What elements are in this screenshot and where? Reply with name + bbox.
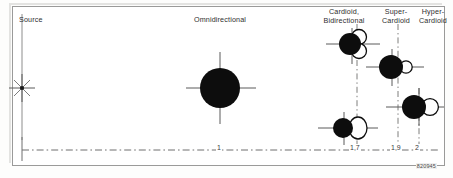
super-cardioid-front-lobe (379, 55, 403, 79)
label-cardioid-bidirectional: Cardioid, Bidirectional (313, 8, 375, 25)
pattern-hyper-cardioid (386, 88, 444, 126)
polar-pattern-figure: Source Omnidirectional Cardioid, Bidirec… (0, 0, 453, 178)
label-omnidirectional: Omnidirectional (165, 16, 275, 25)
axis-tick-label-1-9: 1,9 (390, 144, 402, 152)
diagram-canvas (0, 0, 453, 178)
axis-tick-label-2: 2 (414, 144, 420, 152)
figure-reference-code: 820945 (416, 163, 437, 169)
pattern-cardioid (318, 112, 378, 145)
label-hyper-cardioid: Hyper- Cardioid (414, 8, 452, 25)
omnidirectional-lobe (200, 68, 240, 108)
label-super-cardioid: Super- Cardioid (375, 8, 417, 25)
pattern-omnidirectional (186, 52, 256, 124)
source-star-icon (9, 74, 35, 102)
cardioid-front-lobe (333, 118, 353, 138)
label-source: Source (19, 16, 43, 25)
bidirectional-front-lobe (339, 33, 361, 55)
pattern-super-cardioid (366, 49, 424, 86)
axis-tick-label-1: 1 (216, 144, 222, 152)
hyper-cardioid-front-lobe (402, 95, 426, 119)
axis-tick-label-1-7: 1,7 (349, 144, 361, 152)
pattern-bidirectional (326, 28, 380, 64)
